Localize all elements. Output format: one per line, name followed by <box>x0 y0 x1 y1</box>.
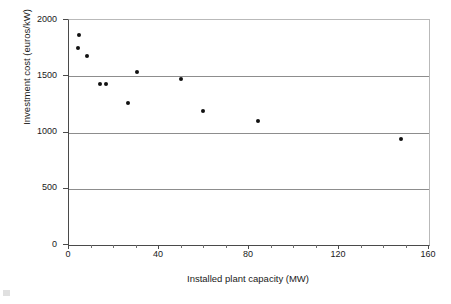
x-tick-label-0: 0 <box>48 250 88 259</box>
x-tick-minor-70 <box>226 245 227 248</box>
x-tick-label-120: 120 <box>318 250 358 259</box>
x-tick-minor-130 <box>361 245 362 248</box>
data-point <box>179 77 183 81</box>
y-tick-label-2000: 2000 <box>37 15 57 24</box>
x-tick-minor-140 <box>383 245 384 248</box>
data-point <box>135 70 139 74</box>
y-tick-label-1500: 1500 <box>37 71 57 80</box>
x-axis-title: Installed plant capacity (MW) <box>68 273 428 284</box>
x-tick-label-80: 80 <box>228 250 268 259</box>
data-point <box>77 33 81 37</box>
x-tick-minor-110 <box>316 245 317 248</box>
x-tick-minor-100 <box>293 245 294 248</box>
gridline-500 <box>69 189 429 190</box>
x-tick-label-160: 160 <box>408 250 448 259</box>
x-tick-minor-30 <box>136 245 137 248</box>
x-tick-minor-90 <box>271 245 272 248</box>
y-tick-label-500: 500 <box>42 183 57 192</box>
gridline-1500 <box>69 76 429 77</box>
x-tick-minor-60 <box>203 245 204 248</box>
y-tick-label-0: 0 <box>52 240 57 249</box>
x-tick-minor-50 <box>181 245 182 248</box>
x-tick-minor-150 <box>406 245 407 248</box>
gridline-1000 <box>69 133 429 134</box>
y-tick-label-1000: 1000 <box>37 127 57 136</box>
plot-area <box>68 19 430 246</box>
x-tick-minor-20 <box>113 245 114 248</box>
data-point <box>98 82 102 86</box>
x-tick-label-40: 40 <box>138 250 178 259</box>
scatter-chart-figure: Investment cost (euros/kW) 0500100015002… <box>0 0 451 304</box>
x-tick-minor-10 <box>91 245 92 248</box>
scan-artifact <box>3 290 10 296</box>
